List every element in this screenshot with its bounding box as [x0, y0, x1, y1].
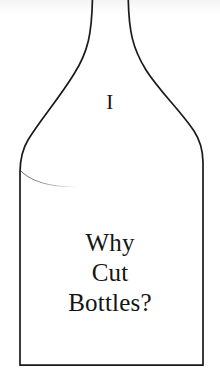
chapter-numeral: I [0, 92, 220, 113]
page-title: Why Cut Bottles? [0, 228, 220, 318]
title-line-2: Cut [0, 258, 220, 288]
bottle-outline-illustration [0, 0, 220, 390]
book-page: I Why Cut Bottles? [0, 0, 220, 390]
title-line-1: Why [0, 228, 220, 258]
title-line-3: Bottles? [0, 288, 220, 318]
bottle-waterline-arc [21, 171, 78, 187]
